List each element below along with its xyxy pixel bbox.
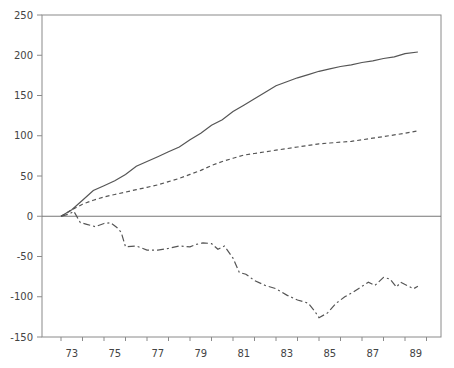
series-line-dash-dot [61,211,418,317]
y-tick-label: -150 [10,332,33,343]
x-axis: 737577798183858789 [61,337,427,359]
x-tick-label: 77 [151,348,164,359]
y-tick-label: 0 [27,211,33,222]
series-line-solid [61,52,418,216]
x-tick-label: 73 [65,348,78,359]
y-tick-label: 200 [14,50,33,61]
x-tick-label: 81 [237,348,250,359]
x-tick-label: 85 [323,348,336,359]
y-tick-label: 100 [14,130,33,141]
x-tick-label: 87 [366,348,379,359]
y-tick-label: -100 [10,291,33,302]
series-line-dashed [61,131,418,216]
series-group [61,52,418,318]
x-tick-label: 89 [409,348,422,359]
plot-frame [42,15,441,337]
y-tick-label: 150 [14,90,33,101]
y-tick-label: 250 [14,10,33,21]
y-tick-label: -50 [17,251,33,262]
x-tick-label: 75 [108,348,121,359]
y-tick-label: 50 [20,171,33,182]
y-axis: 250200150100500-50-100-150 [10,10,42,343]
line-chart: 250200150100500-50-100-150 7375777981838… [0,0,454,368]
x-tick-label: 83 [280,348,293,359]
x-tick-label: 79 [194,348,207,359]
